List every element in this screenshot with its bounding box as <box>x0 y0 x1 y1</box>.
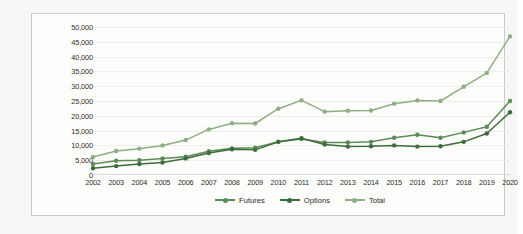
x-axis-tick-label: 2012 <box>317 178 332 187</box>
data-point <box>415 144 419 148</box>
x-axis-tick-label: 2003 <box>108 178 123 187</box>
series-options <box>91 110 512 170</box>
data-point <box>253 148 257 152</box>
data-point <box>508 99 512 103</box>
data-point <box>160 143 164 147</box>
series-line <box>93 101 510 164</box>
data-point <box>346 144 350 148</box>
x-axis-tick-label: 2018 <box>456 178 471 187</box>
y-axis-tick-label: 25,000 <box>71 97 93 106</box>
data-point <box>346 109 350 113</box>
legend-swatch-icon <box>215 196 235 204</box>
plot-area <box>93 27 510 175</box>
legend-label: Options <box>304 196 330 205</box>
data-point <box>114 159 118 163</box>
data-point <box>299 98 303 102</box>
data-point <box>392 143 396 147</box>
data-point <box>485 71 489 75</box>
x-axis-tick-label: 2007 <box>201 178 216 187</box>
data-point <box>415 98 419 102</box>
data-point <box>183 138 187 142</box>
x-axis-tick-label: 2005 <box>155 178 170 187</box>
data-point <box>369 144 373 148</box>
data-point <box>369 140 373 144</box>
y-axis-tick-label: 30,000 <box>71 82 93 91</box>
x-axis: 2002200320042005200620072008200920102011… <box>93 178 510 190</box>
data-point <box>137 146 141 150</box>
data-point <box>207 151 211 155</box>
x-axis-tick-label: 2016 <box>410 178 425 187</box>
data-point <box>508 34 512 38</box>
data-point <box>230 121 234 125</box>
x-axis-tick-label: 2019 <box>479 178 494 187</box>
y-axis-tick-label: 45,000 <box>71 37 93 46</box>
x-axis-tick-label: 2014 <box>363 178 378 187</box>
y-axis: 05,00010,00015,00020,00025,00030,00035,0… <box>65 27 93 175</box>
data-point <box>276 140 280 144</box>
data-point <box>114 149 118 153</box>
data-point <box>438 144 442 148</box>
data-point <box>485 125 489 129</box>
legend-label: Futures <box>239 196 265 205</box>
x-axis-tick-label: 2002 <box>85 178 100 187</box>
x-axis-tick-label: 2013 <box>340 178 355 187</box>
data-point <box>461 130 465 134</box>
legend-label: Total <box>369 196 385 205</box>
data-point <box>137 158 141 162</box>
legend-item-total[interactable]: Total <box>345 196 385 205</box>
data-point <box>160 160 164 164</box>
data-point <box>253 121 257 125</box>
data-point <box>392 136 396 140</box>
x-axis-tick-label: 2006 <box>178 178 193 187</box>
legend-item-options[interactable]: Options <box>280 196 330 205</box>
data-point <box>508 110 512 114</box>
data-point <box>137 162 141 166</box>
data-point <box>207 127 211 131</box>
data-point <box>369 108 373 112</box>
data-point <box>114 164 118 168</box>
data-point <box>415 133 419 137</box>
y-axis-tick-label: 50,000 <box>71 23 93 32</box>
x-axis-tick-label: 2011 <box>294 178 309 187</box>
y-axis-tick-label: 5,000 <box>75 156 93 165</box>
data-point <box>485 131 489 135</box>
data-point <box>392 101 396 105</box>
data-point <box>322 109 326 113</box>
x-axis-tick-label: 2010 <box>271 178 286 187</box>
x-axis-tick-label: 2008 <box>224 178 239 187</box>
x-axis-tick-label: 2009 <box>247 178 262 187</box>
data-point <box>91 162 95 166</box>
chart-legend: FuturesOptionsTotal <box>63 192 523 208</box>
x-axis-tick-label: 2017 <box>433 178 448 187</box>
data-point <box>438 136 442 140</box>
x-axis-tick-label: 2015 <box>386 178 401 187</box>
series-layer <box>93 27 510 175</box>
legend-item-futures[interactable]: Futures <box>215 196 265 205</box>
series-futures <box>91 99 512 166</box>
data-point <box>91 155 95 159</box>
data-point <box>276 107 280 111</box>
data-point <box>461 140 465 144</box>
data-point <box>461 85 465 89</box>
y-axis-tick-label: 15,000 <box>71 126 93 135</box>
chart-frame: 05,00010,00015,00020,00025,00030,00035,0… <box>31 13 505 216</box>
data-point <box>91 166 95 170</box>
data-point <box>322 142 326 146</box>
legend-swatch-icon <box>280 196 300 204</box>
legend-swatch-icon <box>345 196 365 204</box>
x-axis-tick-label: 2020 <box>502 178 517 187</box>
y-axis-tick-label: 20,000 <box>71 111 93 120</box>
x-axis-tick-label: 2004 <box>132 178 147 187</box>
y-axis-tick-label: 10,000 <box>71 141 93 150</box>
data-point <box>346 140 350 144</box>
data-point <box>438 99 442 103</box>
y-axis-tick-label: 40,000 <box>71 52 93 61</box>
data-point <box>299 136 303 140</box>
data-point <box>230 147 234 151</box>
data-point <box>183 156 187 160</box>
y-axis-tick-label: 35,000 <box>71 67 93 76</box>
data-point <box>160 156 164 160</box>
